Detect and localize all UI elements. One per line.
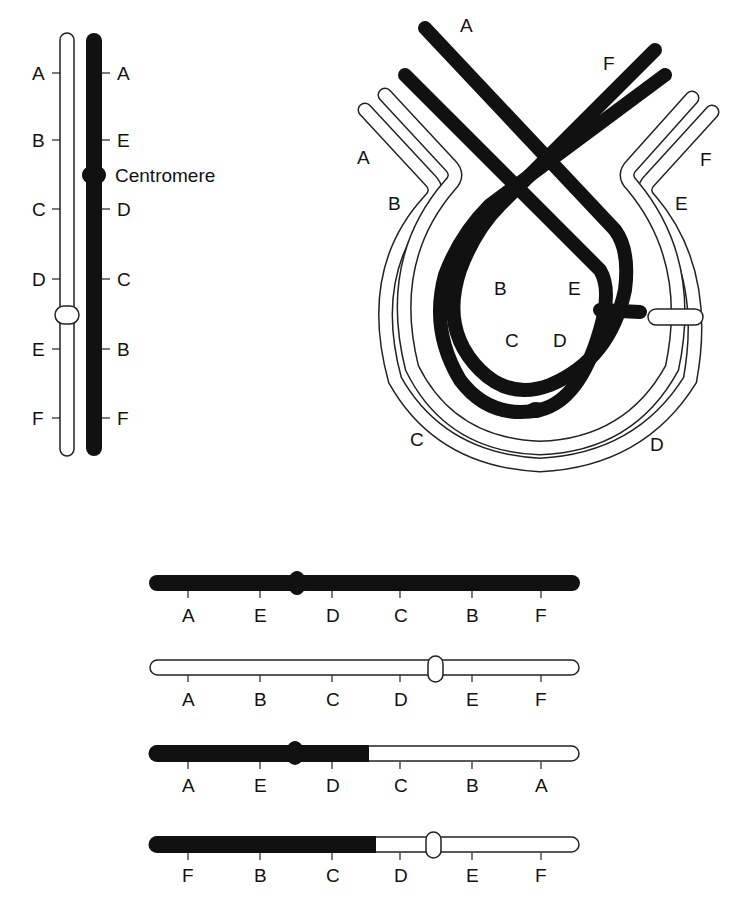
svg-text:D: D (553, 330, 567, 351)
svg-text:C: C (394, 775, 408, 796)
inverted-ticks (102, 73, 110, 418)
bottom-labels-row4: F B C D E F (182, 865, 547, 886)
product-dicentric (149, 741, 580, 765)
svg-text:D: D (394, 865, 408, 886)
svg-text:D: D (326, 775, 340, 796)
svg-text:C: C (117, 269, 131, 290)
svg-text:C: C (326, 689, 340, 710)
white-centromere-loop (648, 309, 703, 325)
svg-text:D: D (394, 689, 408, 710)
svg-text:D: D (32, 269, 46, 290)
svg-text:B: B (254, 689, 267, 710)
centromere-inverted (82, 165, 106, 185)
svg-text:D: D (650, 434, 664, 455)
centromere-normal (55, 306, 79, 324)
svg-text:E: E (568, 278, 581, 299)
product-inverted (149, 571, 580, 595)
bottom-ticks (188, 591, 541, 860)
normal-chromosome-vertical (55, 33, 79, 456)
svg-text:E: E (254, 605, 267, 626)
svg-text:C: C (394, 605, 408, 626)
bottom-labels-row3: A E D C B A (182, 775, 548, 796)
svg-text:F: F (535, 689, 547, 710)
svg-text:E: E (675, 193, 688, 214)
svg-text:B: B (117, 339, 130, 360)
svg-text:F: F (535, 605, 547, 626)
svg-text:D: D (117, 199, 131, 220)
normal-ticks (52, 73, 60, 418)
svg-text:B: B (466, 775, 479, 796)
svg-text:E: E (466, 865, 479, 886)
svg-text:C: C (32, 199, 46, 220)
svg-text:F: F (182, 865, 194, 886)
svg-text:F: F (700, 149, 712, 170)
product-acentric (149, 832, 580, 858)
black-chromatids (405, 28, 665, 418)
inverted-chromosome-vertical (82, 33, 106, 456)
svg-text:A: A (460, 15, 473, 36)
svg-text:F: F (535, 865, 547, 886)
svg-text:B: B (466, 605, 479, 626)
svg-text:C: C (410, 429, 424, 450)
normal-labels: A B C D E F (32, 63, 46, 429)
svg-text:A: A (357, 147, 370, 168)
svg-text:F: F (32, 408, 44, 429)
bottom-labels-row1: A E D C B F (182, 605, 547, 626)
inverted-labels: A E D C B F (117, 63, 131, 429)
svg-text:E: E (254, 775, 267, 796)
svg-text:E: E (117, 130, 130, 151)
centromere-label: Centromere (115, 165, 215, 186)
svg-text:E: E (32, 339, 45, 360)
svg-text:F: F (117, 408, 129, 429)
svg-text:A: A (32, 63, 45, 84)
svg-text:A: A (182, 689, 195, 710)
svg-text:A: A (535, 775, 548, 796)
product-normal (150, 656, 579, 682)
svg-text:B: B (32, 130, 45, 151)
inversion-diagram: A B C D E F A E D C B F Centromere (0, 0, 732, 907)
svg-text:A: A (182, 605, 195, 626)
svg-text:D: D (326, 605, 340, 626)
svg-text:A: A (117, 63, 130, 84)
inversion-loop (365, 28, 712, 465)
svg-text:C: C (505, 330, 519, 351)
svg-text:B: B (494, 278, 507, 299)
svg-text:B: B (254, 865, 267, 886)
svg-text:F: F (603, 53, 615, 74)
svg-text:C: C (326, 865, 340, 886)
bottom-labels-row2: A B C D E F (182, 689, 547, 710)
svg-text:B: B (388, 193, 401, 214)
svg-text:A: A (182, 775, 195, 796)
svg-text:E: E (466, 689, 479, 710)
